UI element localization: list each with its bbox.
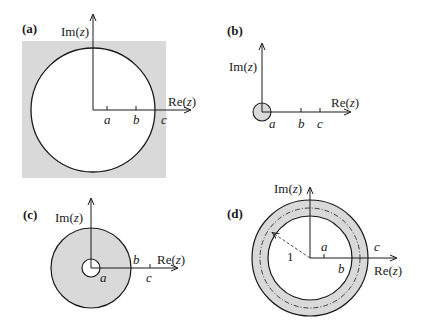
im-axis-label: Im(z)	[274, 181, 302, 196]
panel-c: (c) Im(z) Re(z) a b c	[23, 199, 185, 308]
point-c-label: c	[161, 112, 167, 127]
point-b-label: b	[133, 252, 140, 267]
panel-label: (c)	[23, 207, 37, 222]
radius-label: 1	[287, 249, 294, 264]
panel-label: (b)	[227, 23, 243, 38]
im-axis-label: Im(z)	[229, 59, 257, 74]
im-axis-label: Im(z)	[55, 210, 83, 225]
complex-plane-figure: (a) Im(z) Re(z) a b c (b) Im(z) Re(z) a …	[0, 0, 421, 323]
re-axis-label: Re(z)	[157, 252, 185, 267]
im-axis-label: Im(z)	[61, 24, 89, 39]
panel-a: (a) Im(z) Re(z) a b c	[22, 15, 196, 178]
point-a-label: a	[104, 112, 111, 127]
point-c-label: c	[374, 239, 380, 254]
point-a-label: a	[269, 116, 276, 131]
point-c-label: c	[317, 116, 323, 131]
panel-label: (a)	[22, 21, 37, 36]
panel-label: (d)	[227, 206, 243, 221]
point-b-label: b	[338, 261, 345, 276]
re-axis-label: Re(z)	[168, 94, 196, 109]
re-axis-label: Re(z)	[331, 95, 359, 110]
panel-d: (d) Im(z) Re(z) 1 a b c	[227, 181, 402, 316]
panel-b: (b) Im(z) Re(z) a b c	[227, 23, 359, 131]
point-b-label: b	[133, 112, 140, 127]
point-c-label: c	[146, 270, 152, 285]
point-a-label: a	[100, 270, 107, 285]
point-b-label: b	[298, 116, 305, 131]
point-a-label: a	[321, 239, 328, 254]
re-axis-label: Re(z)	[374, 263, 402, 278]
